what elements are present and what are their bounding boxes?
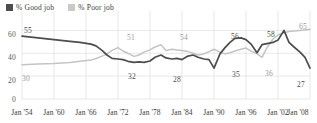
y-tick-20: 20 (2, 76, 16, 85)
x-tick-jan-90: Jan '90 (197, 108, 231, 117)
data-label-poor-1972: 51 (127, 33, 135, 42)
data-label-good-start: 55 (24, 26, 32, 35)
data-label-good-1995: 35 (232, 70, 240, 79)
x-tick-jan-54: Jan '54 (5, 108, 39, 117)
legend-label-good-job: % Good job (16, 3, 54, 12)
legend-item-poor-job: % Poor job (68, 3, 114, 12)
x-tick-jan-84: Jan '84 (165, 108, 199, 117)
x-tick-jan-72: Jan '72 (101, 108, 135, 117)
data-label-poor-start: 30 (22, 74, 30, 83)
x-tick-jan-08: Jan '08 (281, 108, 315, 117)
y-tick-60: 60 (2, 30, 16, 39)
data-label-poor-2002: 36 (265, 69, 273, 78)
data-label-good-1991: 56 (231, 32, 239, 41)
data-label-good-1983: 28 (173, 75, 181, 84)
data-label-poor-1983: 54 (180, 33, 188, 42)
data-label-good-1974: 32 (128, 72, 136, 81)
data-label-good-end: 27 (297, 80, 305, 89)
x-tick-jan-78: Jan '78 (133, 108, 167, 117)
data-label-good-2002: 58 (267, 30, 275, 39)
x-axis-labels: Jan '54 Jan '60 Jan '66 Jan '72 Jan '78 … (0, 108, 317, 120)
y-tick-40: 40 (2, 53, 16, 62)
legend-item-good-job: % Good job (6, 3, 54, 12)
square-swatch-icon (6, 4, 13, 11)
data-label-poor-end: 65 (299, 22, 307, 31)
x-tick-jan-96: Jan '96 (229, 108, 263, 117)
gridlines-vertical (22, 11, 310, 99)
x-tick-jan-66: Jan '66 (69, 108, 103, 117)
square-swatch-icon (68, 4, 75, 11)
y-tick-0: 0 (2, 95, 16, 104)
chart-legend: % Good job % Poor job (6, 3, 114, 12)
x-tick-jan-60: Jan '60 (37, 108, 71, 117)
line-chart: % Good job % Poor job 60 40 20 0 (0, 0, 317, 123)
legend-label-poor-job: % Poor job (78, 3, 114, 12)
